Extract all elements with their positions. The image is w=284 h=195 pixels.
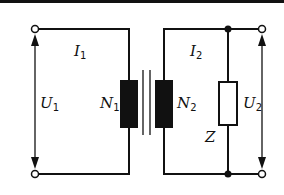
terminal-secondary-top xyxy=(259,26,266,33)
label-i2: I2 xyxy=(189,42,202,61)
top-border xyxy=(0,0,284,3)
secondary-coil xyxy=(155,80,173,128)
u1-arrow xyxy=(31,34,39,169)
label-i1: I1 xyxy=(73,42,86,61)
transformer-core xyxy=(143,70,150,135)
label-u2: U2 xyxy=(243,94,262,113)
arrow-down-icon xyxy=(258,157,266,169)
terminal-primary-bottom xyxy=(32,171,39,178)
arrow-down-icon xyxy=(31,157,39,169)
terminal-primary-top xyxy=(32,26,39,33)
transformer-circuit-diagram: I1 I2 U1 U2 N1 N2 Z xyxy=(0,0,284,195)
secondary-top-wire xyxy=(164,29,259,80)
arrow-up-icon xyxy=(31,34,39,46)
label-u1: U1 xyxy=(40,94,59,113)
terminal-secondary-bottom xyxy=(259,171,266,178)
primary-coil xyxy=(120,80,138,128)
junction-dot-bottom xyxy=(225,171,232,178)
arrow-up-icon xyxy=(258,34,266,46)
impedance xyxy=(219,82,237,125)
junction-dot-top xyxy=(225,26,232,33)
label-n1: N1 xyxy=(99,94,120,113)
label-n2: N2 xyxy=(176,94,197,113)
primary-bottom-wire xyxy=(38,128,129,174)
label-z: Z xyxy=(204,128,216,146)
